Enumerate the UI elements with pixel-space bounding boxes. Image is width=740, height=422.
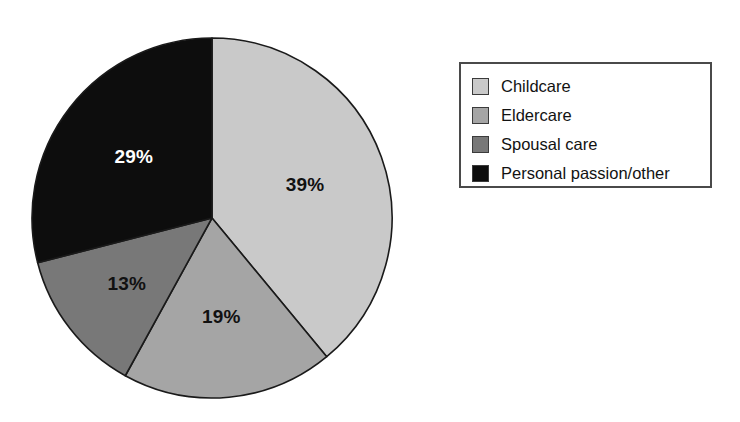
- pie-slice-label: 29%: [114, 146, 153, 167]
- pie-chart-figure: 39%19%13%29% ChildcareEldercareSpousal c…: [0, 0, 740, 422]
- legend-color-swatch: [472, 78, 489, 95]
- legend-item-label: Childcare: [501, 78, 571, 95]
- legend-item-label: Personal passion/other: [501, 165, 670, 182]
- legend-item-label: Spousal care: [501, 136, 597, 153]
- legend-item[interactable]: Eldercare: [472, 101, 704, 130]
- pie-slice-group: [32, 38, 392, 398]
- pie-chart-plot-area: 39%19%13%29%: [30, 36, 394, 400]
- legend-item-list: ChildcareEldercareSpousal carePersonal p…: [472, 72, 704, 188]
- legend-item[interactable]: Spousal care: [472, 130, 704, 159]
- legend-item[interactable]: Personal passion/other: [472, 159, 704, 188]
- legend-color-swatch: [472, 165, 489, 182]
- pie-chart-svg: 39%19%13%29%: [30, 36, 394, 400]
- legend-color-swatch: [472, 136, 489, 153]
- pie-slice-label: 39%: [286, 174, 325, 195]
- legend-item[interactable]: Childcare: [472, 72, 704, 101]
- legend-color-swatch: [472, 107, 489, 124]
- legend-item-label: Eldercare: [501, 107, 572, 124]
- chart-legend: ChildcareEldercareSpousal carePersonal p…: [459, 62, 712, 188]
- pie-slice-label: 13%: [107, 273, 146, 294]
- pie-slice-label: 19%: [202, 306, 241, 327]
